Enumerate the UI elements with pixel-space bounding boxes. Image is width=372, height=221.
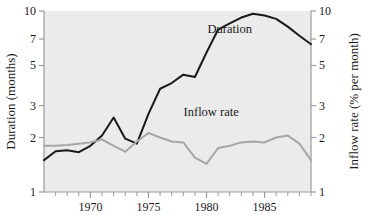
y-axis-left-tick-label: 5 bbox=[30, 58, 36, 72]
x-axis-tick-label: 1980 bbox=[195, 200, 219, 214]
y-axis-left-title: Duration (months) bbox=[3, 53, 18, 149]
y-axis-right-tick-label: 3 bbox=[319, 99, 325, 113]
y-axis-right-tick-label: 1 bbox=[319, 185, 325, 199]
y-axis-right-title: Inflow rate (% per month) bbox=[346, 33, 361, 169]
y-axis-left-tick-label: 1 bbox=[30, 185, 36, 199]
y-axis-right-tick-label: 10 bbox=[319, 4, 331, 18]
x-axis-tick-label: 1975 bbox=[136, 200, 160, 214]
x-axis-tick-label: 1970 bbox=[78, 200, 102, 214]
y-axis-right-tick-label: 7 bbox=[319, 32, 325, 46]
series-label-duration: Duration bbox=[208, 22, 253, 36]
y-axis-left-tick-label: 2 bbox=[30, 131, 36, 145]
y-axis-right-tick-label: 5 bbox=[319, 58, 325, 72]
y-axis-right-tick-label: 2 bbox=[319, 131, 325, 145]
y-axis-left-tick-label: 3 bbox=[30, 99, 36, 113]
dual-axis-line-chart: 1970197519801985 1235710 1235710 Duratio… bbox=[0, 0, 372, 221]
series-label-inflow-rate: Inflow rate bbox=[184, 105, 240, 119]
figure-container: 1970197519801985 1235710 1235710 Duratio… bbox=[0, 0, 372, 221]
y-axis-left-tick-label: 7 bbox=[30, 32, 36, 46]
y-axis-left-tick-label: 10 bbox=[24, 4, 36, 18]
x-axis-tick-label: 1985 bbox=[253, 200, 277, 214]
plot-area-background bbox=[44, 11, 311, 192]
